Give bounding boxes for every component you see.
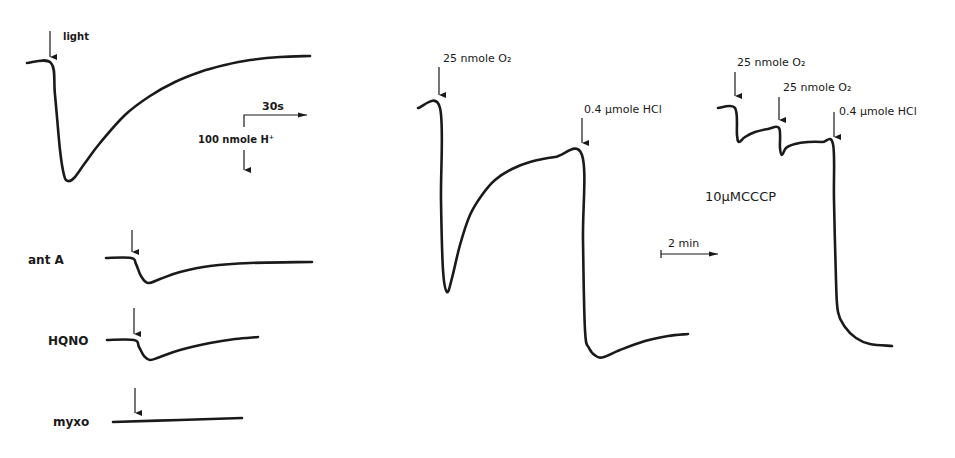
- cccp-o2-trigger-2-label: 25 nmole O₂: [783, 81, 851, 94]
- trace-ant-a: [106, 258, 312, 284]
- panel-ant-a: ant A: [28, 230, 312, 283]
- scale-bar-time-label: 30s: [262, 100, 284, 113]
- scale-bar-time-arrow-icon: [244, 115, 307, 127]
- hqno-label: HQNO: [48, 334, 89, 348]
- scale-bar-amount-label: 100 nmole H⁺: [198, 134, 274, 145]
- panel-hqno: HQNO: [48, 308, 258, 360]
- cccp-condition-label: 10µMCCCP: [705, 189, 776, 204]
- figure-canvas: light 30s 100 nmole H⁺ ant A HQNO myxo 2…: [0, 0, 955, 458]
- panel-myxo: myxo: [53, 388, 242, 429]
- ant-a-label: ant A: [28, 253, 65, 267]
- trace-hqno: [107, 337, 258, 360]
- trace-light-control: [27, 56, 310, 181]
- trace-o2-pulse: [418, 101, 688, 358]
- cccp-o2-trigger-1-label: 25 nmole O₂: [737, 56, 805, 69]
- panel-cccp: 25 nmole O₂ 25 nmole O₂ 0.4 µmole HCl 10…: [705, 56, 917, 346]
- cccp-hcl-trigger-label: 0.4 µmole HCl: [839, 105, 917, 118]
- trace-myxo: [113, 418, 242, 422]
- hcl-trigger-label: 0.4 µmole HCl: [584, 103, 662, 116]
- myxo-label: myxo: [53, 415, 89, 429]
- panel-o2-pulse: 25 nmole O₂ 0.4 µmole HCl: [418, 52, 688, 358]
- scale-bar-2min-label: 2 min: [668, 237, 699, 250]
- scale-bar-30s: 30s 100 nmole H⁺: [198, 100, 307, 170]
- scale-bar-2min: 2 min: [661, 237, 718, 258]
- o2-trigger-label: 25 nmole O₂: [443, 52, 511, 65]
- trace-cccp: [718, 106, 892, 346]
- light-trigger-label: light: [63, 31, 89, 42]
